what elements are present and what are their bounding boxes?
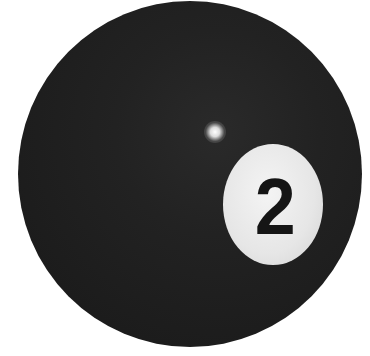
ball-number: 2 (255, 167, 296, 247)
number-disc: 2 (223, 144, 323, 265)
specular-highlight (204, 121, 226, 143)
